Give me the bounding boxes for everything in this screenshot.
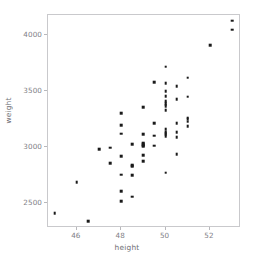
y-axis-tick-label: 4000 [23, 30, 42, 39]
data-point [87, 220, 90, 223]
data-point [175, 153, 178, 156]
data-point [131, 195, 134, 198]
data-point [164, 65, 167, 68]
data-point [120, 133, 123, 136]
data-point [76, 181, 79, 184]
data-point [120, 173, 123, 176]
x-axis-tick-mark [209, 227, 210, 230]
data-point [142, 154, 145, 157]
x-axis-tick-mark [165, 227, 166, 230]
data-point [164, 109, 167, 112]
x-axis-tick-mark [76, 227, 77, 230]
y-axis-tick-label: 3500 [23, 86, 42, 95]
x-axis-tick-label: 48 [116, 231, 125, 240]
data-point [153, 122, 156, 125]
x-axis-tick-label: 46 [71, 231, 80, 240]
data-point [109, 147, 112, 150]
data-point [131, 165, 134, 168]
data-point [175, 136, 178, 139]
y-axis-tick-mark [44, 202, 47, 203]
data-point [164, 90, 167, 93]
y-axis-tick-label: 3000 [23, 142, 42, 151]
data-point [164, 82, 167, 85]
data-point [142, 106, 145, 109]
data-point [153, 144, 156, 147]
data-point [186, 120, 189, 123]
data-point [120, 200, 123, 203]
x-axis-tick-mark [120, 227, 121, 230]
data-point [175, 98, 178, 101]
x-axis-label: height [0, 243, 254, 252]
data-point [175, 131, 178, 134]
data-point [186, 96, 189, 99]
data-point [231, 19, 234, 22]
data-point [164, 95, 167, 98]
data-point [120, 155, 123, 158]
data-point [131, 143, 134, 146]
y-axis-tick-mark [44, 90, 47, 91]
data-point [209, 44, 212, 47]
y-axis-tick-label: 2500 [23, 198, 42, 207]
data-point [186, 76, 189, 79]
data-point [175, 85, 178, 88]
y-axis-label: weight [4, 91, 13, 131]
data-point [109, 162, 112, 165]
x-axis-tick-label: 50 [160, 231, 169, 240]
plot-area [47, 14, 240, 227]
data-point [175, 122, 178, 125]
data-point [142, 133, 145, 136]
data-point [164, 171, 167, 174]
data-point [120, 124, 123, 127]
data-point [164, 105, 167, 108]
data-point [142, 160, 145, 163]
data-points-layer [48, 15, 239, 226]
y-axis-tick-mark [44, 146, 47, 147]
data-point [98, 148, 101, 151]
data-point [120, 190, 123, 193]
data-point [142, 145, 145, 148]
data-point [131, 174, 134, 177]
data-point [231, 28, 234, 31]
data-point [53, 212, 56, 215]
data-point [186, 125, 189, 128]
data-point [153, 81, 156, 84]
scatter-chart-figure: 250030003500400046485052 height weight [0, 0, 254, 263]
data-point [164, 135, 167, 138]
data-point [153, 134, 156, 137]
y-axis-tick-mark [44, 34, 47, 35]
data-point [120, 112, 123, 115]
x-axis-tick-label: 52 [204, 231, 213, 240]
